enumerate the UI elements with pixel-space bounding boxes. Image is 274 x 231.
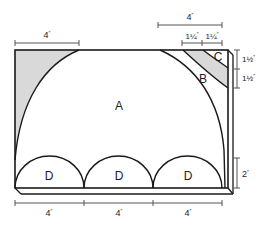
region-label-d2: D [115, 169, 124, 183]
dim-top-right-segment-2: 1¼″ [206, 31, 219, 41]
region-label-c: C [214, 50, 223, 64]
dim-bottom-1: 4″ [46, 208, 53, 218]
dim-top-right-segment-1: 1¼″ [186, 31, 199, 41]
dim-bottom-3: 4″ [185, 208, 192, 218]
region-label-d1: D [45, 169, 54, 183]
dim-right-upper-1: 1½″ [242, 54, 255, 64]
dim-bottom-2: 4″ [116, 208, 123, 218]
region-label-a: A [115, 99, 123, 113]
area-diagram: A B C D D D 4″ 4″ 1¼″ 1¼″ [0, 0, 274, 231]
region-label-d3: D [184, 169, 193, 183]
dim-right-upper-2: 1½″ [242, 73, 255, 83]
shaded-corner-left [15, 50, 79, 160]
dim-right-lower: 2″ [242, 169, 249, 179]
dim-top-left-width: 4″ [44, 30, 51, 40]
dim-top-right-width: 4″ [187, 12, 194, 22]
region-label-b: B [199, 72, 207, 86]
